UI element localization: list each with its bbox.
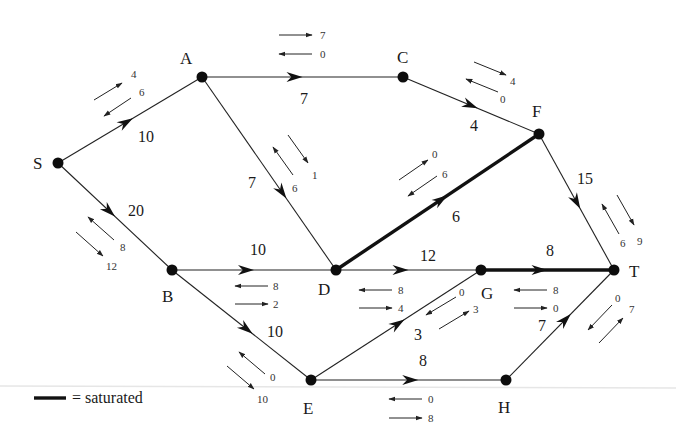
node-dot-icon — [167, 265, 178, 276]
forward-residual-value: 2 — [273, 298, 279, 310]
forward-residual-arrow-icon — [617, 195, 634, 225]
forward-residual-value: 1 — [312, 169, 318, 181]
capacity-label: 6 — [452, 208, 460, 225]
node-label: H — [498, 398, 510, 417]
scan-separator-line — [0, 386, 676, 388]
arrowhead-icon — [117, 118, 133, 130]
residual-S-B: 128 — [76, 217, 126, 272]
forward-residual-value: 10 — [257, 393, 269, 405]
forward-residual-value: 0 — [553, 302, 559, 314]
node-dot-icon — [534, 129, 545, 140]
forward-residual-arrow-icon — [288, 135, 308, 163]
arrowhead-icon — [237, 320, 253, 334]
backward-residual-value: 6 — [139, 86, 145, 98]
residual-B-E: 100 — [227, 352, 276, 405]
node-label: B — [162, 287, 173, 306]
capacity-label: 8 — [546, 242, 554, 259]
capacity-label: 20 — [128, 202, 144, 219]
residual-H-T: 70 — [588, 292, 635, 343]
capacity-label: 3 — [414, 326, 422, 343]
node-label: G — [481, 284, 493, 303]
residual-F-T: 96 — [602, 195, 643, 249]
node-E: E — [303, 375, 317, 419]
residual-E-H: 80 — [389, 393, 434, 424]
backward-residual-value: 8 — [398, 284, 404, 296]
residual-S-A: 46 — [94, 68, 145, 116]
forward-residual-arrow-icon — [399, 160, 428, 180]
backward-residual-value: 8 — [120, 241, 126, 253]
backward-residual-arrow-icon — [602, 204, 619, 234]
backward-residual-value: 6 — [442, 168, 448, 180]
backward-residual-value: 0 — [459, 286, 465, 298]
backward-residual-value: 0 — [320, 48, 326, 60]
legend-label: = saturated — [72, 389, 143, 406]
node-dot-icon — [398, 72, 409, 83]
edge-line — [336, 134, 539, 270]
edge-G-T: 8 — [481, 242, 614, 275]
backward-residual-value: 0 — [615, 292, 621, 304]
node-H: H — [498, 375, 512, 418]
backward-residual-value: 8 — [553, 284, 559, 296]
edge-D-F: 6 — [336, 134, 539, 270]
capacity-label: 7 — [248, 174, 256, 191]
residual-E-G: 30 — [426, 286, 479, 329]
forward-residual-value: 7 — [629, 303, 635, 315]
legend: = saturated — [34, 389, 143, 406]
forward-residual-value: 0 — [432, 148, 438, 160]
forward-residual-value: 7 — [320, 29, 326, 41]
backward-residual-arrow-icon — [239, 352, 265, 374]
node-label: A — [180, 49, 193, 68]
node-label: T — [629, 262, 640, 281]
arrowhead-icon — [388, 320, 404, 333]
residual-A-C: 70 — [279, 29, 326, 60]
backward-residual-value: 0 — [270, 371, 276, 383]
residuals-layer: 467016400696128284810030088070 — [76, 29, 643, 424]
backward-residual-arrow-icon — [466, 79, 498, 92]
edge-H-T: 7 — [506, 270, 614, 380]
capacity-label: 7 — [538, 317, 546, 334]
node-T: T — [609, 262, 641, 281]
residual-A-D: 16 — [273, 135, 318, 194]
edge-line — [506, 270, 614, 380]
forward-residual-arrow-icon — [227, 366, 254, 389]
node-label: C — [397, 48, 408, 67]
backward-residual-arrow-icon — [104, 98, 131, 116]
forward-residual-value: 12 — [106, 260, 117, 272]
residual-C-F: 40 — [466, 62, 516, 105]
backward-residual-value: 0 — [500, 93, 506, 105]
forward-residual-arrow-icon — [474, 62, 506, 75]
forward-residual-value: 9 — [637, 235, 643, 247]
forward-residual-value: 4 — [398, 302, 404, 314]
node-F: F — [532, 102, 545, 140]
node-B: B — [162, 265, 178, 307]
backward-residual-arrow-icon — [426, 297, 456, 315]
forward-residual-value: 4 — [131, 68, 137, 80]
capacity-label: 10 — [250, 241, 266, 258]
edge-D-G: 12 — [336, 247, 481, 275]
residual-D-G: 48 — [359, 284, 404, 314]
arrowhead-icon — [273, 183, 286, 199]
backward-residual-arrow-icon — [273, 147, 293, 175]
backward-residual-value: 6 — [292, 182, 298, 194]
forward-residual-arrow-icon — [94, 83, 122, 100]
edge-B-D: 10 — [172, 241, 336, 275]
node-S: S — [33, 154, 64, 173]
backward-residual-value: 8 — [273, 280, 279, 292]
residual-B-D: 28 — [235, 280, 279, 310]
arrowhead-icon — [568, 192, 580, 208]
node-dot-icon — [197, 72, 208, 83]
backward-residual-arrow-icon — [588, 305, 612, 330]
capacity-label: 4 — [470, 117, 478, 134]
capacity-label: 12 — [420, 247, 436, 264]
node-dot-icon — [331, 265, 342, 276]
edge-S-A: 10 — [58, 77, 202, 163]
residual-G-T: 08 — [514, 284, 559, 314]
forward-residual-arrow-icon — [76, 232, 103, 256]
edge-E-G: 3 — [311, 270, 481, 380]
capacity-label: 8 — [419, 352, 427, 369]
node-dot-icon — [609, 265, 620, 276]
capacity-label: 7 — [300, 90, 308, 107]
edge-C-F: 4 — [403, 77, 539, 134]
node-label: S — [33, 154, 42, 173]
forward-residual-arrow-icon — [439, 311, 469, 329]
